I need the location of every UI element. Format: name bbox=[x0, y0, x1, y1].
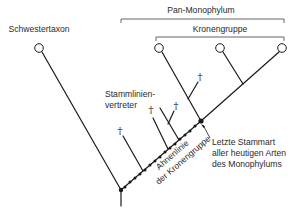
last-ancestor-label-1: Letzte Stammart bbox=[212, 137, 276, 147]
sister-taxon-label: Schwestertaxon bbox=[8, 24, 69, 34]
last-ancestor-label-3: des Monophylums bbox=[212, 159, 282, 169]
crown-group-bracket bbox=[156, 37, 284, 41]
last-ancestor-label-2: aller heutigen Arten bbox=[212, 148, 286, 158]
ancestral-line-label: Ahnenlinie der Kronengruppe bbox=[146, 125, 212, 186]
crown-taxon-node-2 bbox=[216, 44, 225, 53]
pan-monophylum-bracket bbox=[121, 19, 284, 23]
extinct-dagger-1: † bbox=[118, 125, 123, 136]
crown-taxon-node-1 bbox=[155, 44, 164, 53]
extinct-dagger-4: † bbox=[198, 71, 203, 82]
sister-taxon-node bbox=[35, 44, 44, 53]
crown-group-label: Kronengruppe bbox=[193, 24, 248, 34]
extinct-dagger-2: † bbox=[149, 104, 154, 115]
pan-monophylum-label: Pan-Monophylum bbox=[167, 5, 234, 15]
extinct-dagger-3: † bbox=[174, 100, 179, 111]
terminal-taxa bbox=[35, 44, 287, 53]
stem-line-label-2: vertreter bbox=[105, 100, 137, 110]
crown-taxon-node-3 bbox=[278, 44, 287, 53]
stem-line-label-1: Stammlinien- bbox=[105, 89, 155, 99]
phylogenetic-tree-diagram: Pan-Monophylum Kronengruppe Schwestertax… bbox=[0, 0, 303, 219]
root-node bbox=[119, 188, 123, 192]
last-common-ancestor-node bbox=[198, 118, 203, 123]
